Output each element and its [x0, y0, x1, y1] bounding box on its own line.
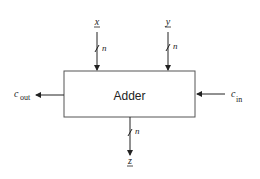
- output-cout-subscript: out: [20, 93, 31, 102]
- input-y: y n: [165, 16, 178, 70]
- input-y-label: y: [165, 16, 171, 27]
- adder-diagram: Adder x n y n c out c in n z: [0, 0, 260, 179]
- output-z-label: z: [127, 155, 132, 166]
- width-label-y: n: [173, 41, 178, 51]
- width-label-z: n: [135, 126, 140, 136]
- output-cout: c out: [14, 88, 64, 102]
- output-cout-label: c: [14, 88, 19, 99]
- adder-block: Adder: [64, 71, 195, 117]
- input-x: x n: [94, 16, 107, 70]
- output-z: n z: [127, 117, 140, 166]
- input-cin: c in: [197, 88, 242, 104]
- width-label-x: n: [102, 43, 107, 53]
- adder-label: Adder: [113, 89, 145, 103]
- input-x-label: x: [94, 16, 100, 27]
- input-cin-subscript: in: [236, 95, 242, 104]
